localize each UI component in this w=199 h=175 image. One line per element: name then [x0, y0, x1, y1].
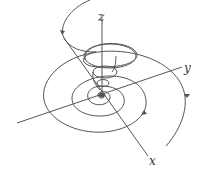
- y-axis-label: y: [184, 62, 191, 74]
- diagram-canvas: [0, 0, 199, 175]
- z-axis-label: z: [98, 11, 104, 23]
- arrowhead-icon: [141, 110, 147, 115]
- x-axis: [64, 38, 148, 156]
- helix-loop-3: [97, 80, 109, 87]
- helix-loop-1: [84, 44, 136, 68]
- planar-spiral-trajectory: [44, 51, 186, 146]
- spiral-core: [99, 93, 105, 97]
- x-axis-label: x: [149, 155, 156, 167]
- phase-portrait-diagram: z y x: [0, 0, 199, 175]
- arrowhead-icon: [60, 30, 65, 35]
- helix-connector: [93, 56, 116, 90]
